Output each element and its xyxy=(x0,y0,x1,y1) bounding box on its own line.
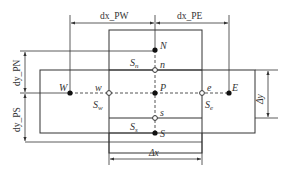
label-e: e xyxy=(207,82,212,93)
label-W: W xyxy=(59,82,69,93)
delta-x-label: Δx xyxy=(148,148,160,158)
face-n xyxy=(153,68,158,73)
node-S xyxy=(152,130,157,135)
node-P xyxy=(152,90,157,95)
node-W xyxy=(67,90,72,95)
label-w: w xyxy=(95,82,102,93)
label-E: E xyxy=(231,82,238,93)
dy-pn-label: dy_PN xyxy=(12,59,22,86)
label-Sw: Sw xyxy=(93,99,103,112)
label-S: S xyxy=(160,128,165,139)
dy-ps-label: dy_PS xyxy=(12,107,22,132)
dx-pe-label: dx_PE xyxy=(177,11,203,21)
node-E xyxy=(226,90,231,95)
label-N: N xyxy=(159,40,168,51)
label-s: s xyxy=(160,107,164,118)
horizontal-cell-outline xyxy=(40,70,255,133)
label-Sn: Sn xyxy=(130,57,139,70)
face-w xyxy=(107,91,112,96)
label-n: n xyxy=(160,59,165,70)
node-N xyxy=(152,47,157,52)
dx-pw-label: dx_PW xyxy=(100,11,129,21)
delta-y-label: Δy xyxy=(255,93,265,105)
label-P: P xyxy=(159,82,166,93)
label-Ss: Ss xyxy=(130,121,138,134)
control-volume-diagram: dx_PW dx_PE dy_PN dy_PS Δy Δx N n P s S … xyxy=(0,0,286,173)
face-e xyxy=(200,91,205,96)
label-Se: Se xyxy=(205,99,213,112)
face-s xyxy=(153,116,158,121)
